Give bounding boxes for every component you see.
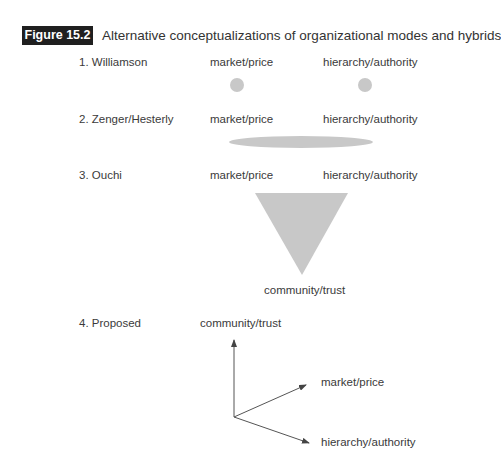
zenger-hesterly-continuum-ellipse bbox=[229, 136, 373, 148]
ouchi-inverted-triangle bbox=[255, 193, 348, 275]
williamson-market-circle bbox=[230, 78, 244, 92]
williamson-hierarchy-circle bbox=[358, 78, 372, 92]
hierarchy-axis-arrow bbox=[234, 417, 309, 443]
market-axis-arrow bbox=[234, 385, 306, 417]
